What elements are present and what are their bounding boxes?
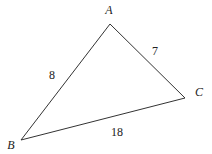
vertex-label-a: A <box>104 3 113 17</box>
side-label-ab: 8 <box>49 68 55 82</box>
side-label-ac: 7 <box>152 44 158 58</box>
triangle-abc <box>21 24 185 140</box>
side-label-bc: 18 <box>111 125 123 139</box>
vertex-label-b: B <box>7 138 15 152</box>
triangle-diagram: A B C 8 7 18 <box>0 0 212 154</box>
vertex-label-c: C <box>195 85 204 99</box>
